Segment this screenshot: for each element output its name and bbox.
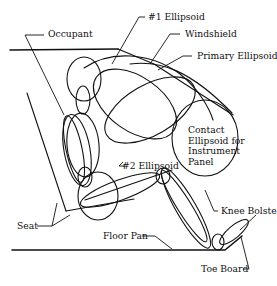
torso-outer-ellipsoid [64,112,101,179]
label-ellipsoid-2: #2 Ellipsoid [122,161,179,172]
roof-line [10,49,118,50]
knee-bolster-leader [205,190,218,211]
label-ellipsoid-1: #1 Ellipsoid [148,12,205,23]
seat-back-line [27,93,66,211]
primary-ellipsoid-leader [158,56,192,70]
label-knee-bolster: Knee Bolster [221,206,277,217]
lower-leg-inner-ellipsoid [156,167,212,246]
ellipsoid-diagram: Occupant #1 Ellipsoid Windshield Primary… [0,0,277,286]
windshield-leader [150,34,180,64]
toe-board-upper-leader [240,215,256,230]
label-toe-board: Toe Board [201,264,248,275]
label-windshield: Windshield [185,29,237,40]
seat-cushion-line [66,199,134,211]
label-contact-ellipsoid: Contact Ellipsoid for Instrument Panel [188,125,245,167]
lower-leg-ellipsoid [154,163,217,253]
thigh-line [85,170,172,200]
ankle-ellipsoid [212,234,224,250]
label-occupant: Occupant [48,29,93,40]
windshield-lower-line [130,63,232,113]
label-seat: Seat [17,221,38,232]
label-primary-ellipsoid: Primary Ellipsoid [197,51,277,62]
label-floor-pan: Floor Pan [103,231,148,242]
